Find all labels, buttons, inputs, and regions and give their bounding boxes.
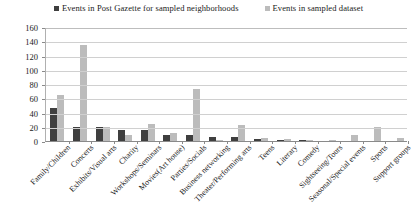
plot-area — [45, 28, 407, 142]
y-tick-label: 20 — [30, 124, 39, 133]
bar-series-0 — [299, 140, 306, 141]
gridline — [46, 57, 407, 58]
bar-series-1 — [170, 133, 177, 141]
bar-series-1 — [125, 135, 132, 141]
x-category-label: Literary — [275, 143, 300, 168]
bar-series-1 — [80, 45, 87, 141]
bar-series-1 — [216, 140, 223, 141]
bar-series-1 — [261, 138, 268, 141]
gridline — [46, 71, 407, 72]
y-tick-label: 100 — [25, 67, 38, 76]
y-tick-label: 40 — [30, 109, 39, 118]
gridline — [46, 128, 407, 129]
gridline — [46, 28, 407, 29]
bar-chart: Events in Post Gazette for sampled neigh… — [0, 0, 417, 218]
legend-swatch-series-0 — [54, 6, 59, 11]
bar-series-1 — [148, 124, 155, 141]
x-category-label: Family/Children — [29, 143, 73, 187]
bar-series-0 — [118, 130, 125, 141]
gridline — [46, 85, 407, 86]
gridline — [46, 42, 407, 43]
bar-series-1 — [193, 89, 200, 141]
legend-entry-1: Events in sampled dataset — [265, 3, 364, 13]
bar-series-0 — [209, 137, 216, 141]
bar-series-1 — [284, 139, 291, 141]
bar-series-0 — [73, 127, 80, 141]
bar-series-1 — [103, 127, 110, 141]
legend-swatch-series-1 — [265, 6, 270, 11]
gridline — [46, 114, 407, 115]
bar-series-1 — [351, 135, 358, 141]
gridline — [46, 99, 407, 100]
bar-series-1 — [306, 140, 313, 141]
x-axis-labels: Family/ChildrenConcertsExhibits/Visual a… — [45, 143, 407, 218]
legend-entry-0: Events in Post Gazette for sampled neigh… — [54, 3, 239, 13]
bar-series-0 — [254, 139, 261, 141]
y-tick-label: 120 — [25, 52, 38, 61]
bar-series-0 — [141, 130, 148, 141]
bar-series-1 — [57, 95, 64, 141]
x-tick-mark — [408, 141, 409, 144]
chart-legend: Events in Post Gazette for sampled neigh… — [0, 3, 417, 13]
y-axis-labels: 020406080100120140160 — [0, 28, 42, 142]
y-tick-label: 80 — [30, 81, 39, 90]
bar-series-0 — [231, 137, 238, 141]
y-tick-label: 60 — [30, 95, 39, 104]
bar-series-1 — [374, 127, 381, 141]
bar-series-1 — [397, 138, 404, 141]
y-tick-label: 160 — [25, 24, 38, 33]
legend-label-series-1: Events in sampled dataset — [273, 3, 364, 13]
x-category-label: Teens — [257, 143, 276, 162]
legend-label-series-0: Events in Post Gazette for sampled neigh… — [62, 3, 239, 13]
bar-series-0 — [163, 135, 170, 141]
y-tick-label: 140 — [25, 38, 38, 47]
bar-series-1 — [329, 140, 336, 141]
bar-series-0 — [277, 140, 284, 141]
y-tick-label: 0 — [34, 138, 38, 147]
bar-series-0 — [96, 127, 103, 141]
bar-series-0 — [186, 135, 193, 141]
